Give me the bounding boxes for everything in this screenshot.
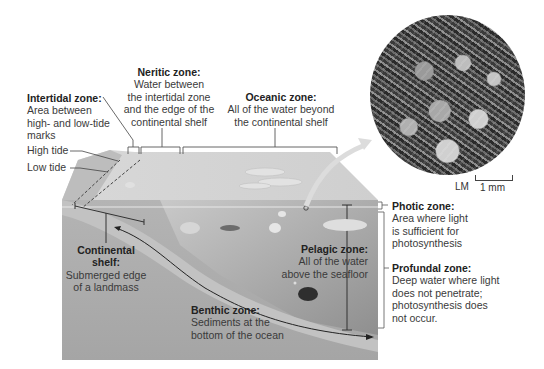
fish-school-icon: [323, 219, 367, 231]
plankton-micrograph: [370, 15, 525, 175]
profundal-zone-label: Profundal zone: Deep water where light d…: [392, 262, 499, 324]
beach-rock-icon: [125, 182, 135, 188]
neritic-zone-label: Neritic zone: Water between the intertid…: [114, 66, 224, 128]
continental-shelf-label: Continental shelf: Submerged edge of a l…: [60, 244, 152, 294]
intertidal-zone-label: Intertidal zone: Area between high- and …: [27, 92, 110, 142]
high-tide-label: High tide: [27, 144, 68, 156]
fish-small-icon: [220, 225, 240, 231]
anglerfish-icon: [298, 287, 318, 301]
scale-label: 1 mm: [480, 182, 505, 193]
coral-icon: [180, 222, 200, 234]
low-tide-label: Low tide: [27, 161, 66, 173]
pelagic-zone-label: Pelagic zone: All of the water above the…: [268, 243, 368, 280]
benthic-zone-label: Benthic zone: Sediments at the bottom of…: [191, 304, 284, 341]
oceanic-zone-label: Oceanic zone: All of the water beyond th…: [216, 91, 346, 128]
scale-bar: [475, 175, 513, 181]
photic-zone-label: Photic zone: Area where light is suffici…: [392, 200, 468, 250]
micrograph-type-label: LM: [455, 181, 469, 192]
